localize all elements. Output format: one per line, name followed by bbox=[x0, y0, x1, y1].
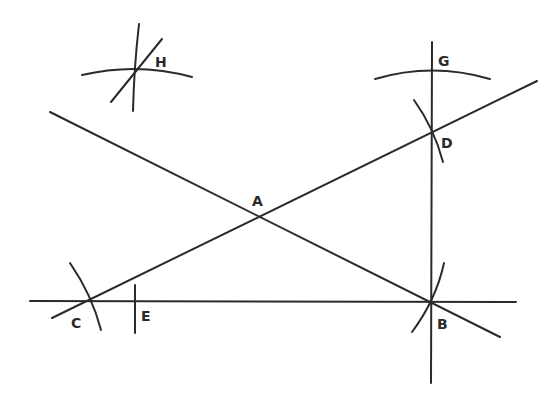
label-a: A bbox=[252, 193, 263, 209]
base-line bbox=[30, 301, 516, 302]
geometry-diagram: A B C D E G H bbox=[0, 0, 557, 398]
perpendicular-line bbox=[431, 42, 432, 383]
label-d: D bbox=[441, 135, 453, 151]
label-h: H bbox=[155, 54, 167, 70]
label-g: G bbox=[438, 53, 450, 69]
diagonal-line-CD bbox=[52, 81, 537, 318]
label-b: B bbox=[437, 316, 448, 332]
arc-at-D bbox=[414, 100, 443, 162]
label-c: C bbox=[71, 315, 81, 331]
label-e: E bbox=[141, 308, 151, 324]
